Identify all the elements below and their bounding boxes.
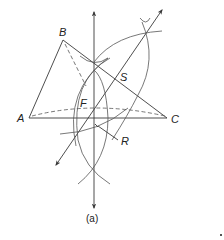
figure-caption: (a) (86, 213, 98, 224)
label-c: C (171, 113, 179, 125)
geometry-construction-figure: A B C F S R (a) (0, 0, 224, 240)
label-a: A (16, 112, 24, 124)
tick-arc-top-right (140, 18, 150, 22)
leader-r (98, 126, 118, 140)
arc-lens-left (77, 58, 110, 184)
label-r: R (121, 135, 129, 147)
label-b: B (59, 26, 66, 38)
label-f: F (80, 97, 88, 109)
triangle-abc (29, 40, 167, 118)
dashed-b-to-f (65, 44, 86, 86)
stray-dot (220, 234, 222, 236)
arc-top-left (94, 31, 162, 62)
dashed-a-to-c-arc (32, 108, 165, 116)
side-ab (29, 40, 63, 118)
label-s: S (120, 71, 128, 83)
construction-arcs (60, 18, 162, 184)
